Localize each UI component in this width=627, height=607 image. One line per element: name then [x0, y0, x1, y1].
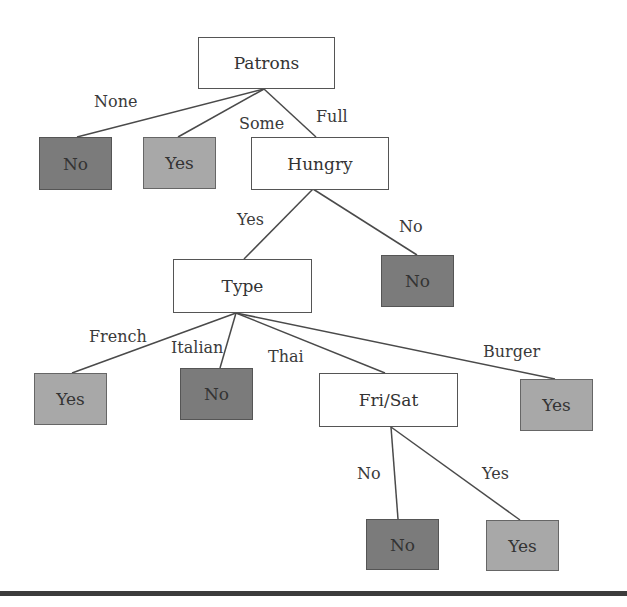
- edge-label-burger: Burger: [483, 342, 540, 361]
- leaf-label: No: [405, 271, 430, 291]
- leaf-type-italian: No: [180, 368, 253, 420]
- leaf-frisat-yes: Yes: [486, 520, 559, 571]
- leaf-label: Yes: [542, 395, 571, 415]
- edge-label-italian: Italian: [171, 338, 223, 357]
- leaf-label: Yes: [165, 153, 194, 173]
- leaf-type-french: Yes: [34, 373, 107, 425]
- leaf-patrons-some: Yes: [143, 137, 216, 189]
- edge-label-frisat-no: No: [357, 464, 381, 483]
- leaf-frisat-no: No: [366, 519, 439, 570]
- leaf-label: Yes: [56, 389, 85, 409]
- leaf-hungry-no: No: [381, 255, 454, 307]
- edge-label-hungry-yes: Yes: [237, 210, 264, 229]
- edge-label-some: Some: [239, 114, 284, 133]
- edge-label-french: French: [89, 327, 147, 346]
- leaf-label: No: [63, 154, 88, 174]
- node-patrons: Patrons: [198, 37, 335, 89]
- edge-label-hungry-no: No: [399, 217, 423, 236]
- leaf-patrons-none: No: [39, 137, 112, 190]
- leaf-type-burger: Yes: [520, 379, 593, 431]
- node-hungry-label: Hungry: [287, 154, 352, 174]
- edge-label-thai: Thai: [268, 347, 304, 366]
- decision-tree-diagram: Patrons No Yes Hungry No Type Yes No Fri…: [0, 0, 627, 607]
- node-patrons-label: Patrons: [234, 53, 300, 73]
- bottom-rule-divider: [0, 591, 627, 596]
- leaf-label: No: [390, 535, 415, 555]
- leaf-label: Yes: [508, 536, 537, 556]
- node-type: Type: [173, 259, 312, 313]
- edge-label-frisat-yes: Yes: [482, 464, 509, 483]
- node-frisat: Fri/Sat: [319, 373, 458, 427]
- edge-type-thai: [236, 313, 385, 373]
- node-type-label: Type: [222, 276, 264, 296]
- node-hungry: Hungry: [251, 137, 389, 190]
- leaf-label: No: [204, 384, 229, 404]
- edge-frisat-no: [391, 427, 398, 519]
- node-frisat-label: Fri/Sat: [359, 390, 419, 410]
- edge-label-none: None: [94, 92, 137, 111]
- edge-label-full: Full: [316, 107, 348, 126]
